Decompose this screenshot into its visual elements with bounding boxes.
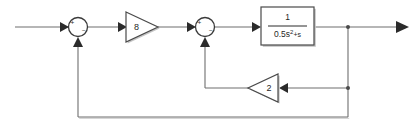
arrow-into-summer2-icon — [187, 22, 196, 32]
inner-feedback-gain-block[interactable]: 2 — [248, 74, 280, 104]
plant-numerator: 1 — [285, 12, 290, 22]
forward-gain-label: 8 — [134, 22, 139, 32]
plant-denominator-main: 0.5s — [274, 29, 290, 39]
arrowhead-layer — [60, 21, 409, 93]
forward-gain-block[interactable]: 8 — [126, 12, 160, 44]
summer-1-minus-sign: − — [82, 27, 86, 34]
summer-1-plus-sign: + — [71, 19, 75, 26]
arrow-into-plant-icon — [252, 22, 261, 32]
plant-denominator-tail: +s — [293, 31, 301, 38]
output-takeoff-dot — [346, 25, 350, 29]
plant-block[interactable]: 1 0.5s2+s — [261, 7, 316, 47]
block-diagram-svg: + − 8 + − 1 0.5s2+s 2 — [0, 0, 416, 129]
summer-2[interactable]: + − — [196, 18, 215, 37]
arrow-up-into-summer2-icon — [200, 37, 210, 47]
inner-loop-takeoff-dot — [346, 86, 350, 90]
block-diagram-canvas: + − 8 + − 1 0.5s2+s 2 — [0, 0, 416, 129]
plant-denominator: 0.5s2+s — [274, 29, 302, 40]
summer-2-minus-sign: − — [209, 27, 213, 34]
arrow-into-summer1-icon — [60, 22, 69, 32]
arrow-up-into-summer1-icon — [73, 37, 83, 47]
arrow-output-icon — [396, 21, 409, 33]
summer-1[interactable]: + − — [69, 18, 88, 37]
forward-gain-triangle — [126, 12, 158, 42]
arrow-into-gain2-icon — [279, 83, 288, 93]
inner-feedback-gain-label: 2 — [266, 83, 271, 93]
summer-2-plus-sign: + — [198, 19, 202, 26]
inner-feedback-gain-triangle — [248, 74, 278, 102]
wire-layer — [15, 27, 401, 118]
